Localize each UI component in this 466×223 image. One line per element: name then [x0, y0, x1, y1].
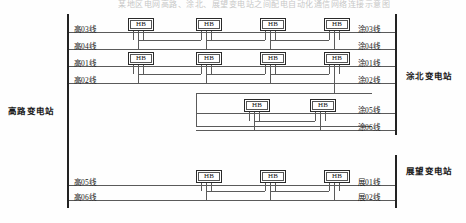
- diagram-title: 某地区电网高路、涂北、展望变电站之间配电自动化通信网络连接示意图: [118, 0, 390, 9]
- hb-device[interactable]: HB: [324, 170, 350, 183]
- substation-label-gaolu: 高路变电站: [8, 104, 55, 116]
- feeder-label-right-tu06: 涂06线: [358, 121, 380, 132]
- feeder-label-right-zhan02: 展02线: [358, 191, 380, 202]
- hb-device[interactable]: HB: [260, 170, 286, 183]
- feeder-label-right-tu02: 涂02线: [358, 74, 380, 85]
- hb-device[interactable]: HB: [310, 99, 336, 112]
- feeder-label-right-tu04: 涂04线: [358, 40, 380, 51]
- hb-device[interactable]: HB: [244, 99, 270, 112]
- feeder-label-right-tu01: 涂01线: [358, 57, 380, 68]
- hb-device[interactable]: HB: [260, 52, 286, 65]
- feeder-label-left-gao03: 高03线: [74, 23, 96, 34]
- feeder-label-right-zhan01: 展01线: [358, 176, 380, 187]
- hb-device[interactable]: HB: [128, 18, 154, 31]
- hb-device[interactable]: HB: [324, 18, 350, 31]
- diagram-canvas: 某地区电网高路、涂北、展望变电站之间配电自动化通信网络连接示意图: [0, 0, 466, 223]
- hb-device[interactable]: HB: [260, 18, 286, 31]
- feeder-label-left-gao04: 高04线: [74, 40, 96, 51]
- substation-label-tubei: 涂北变电站: [406, 69, 453, 81]
- hb-device[interactable]: HB: [196, 18, 222, 31]
- feeder-label-left-gao05: 高05线: [74, 176, 96, 187]
- feeder-label-right-tu05: 涂05线: [358, 104, 380, 115]
- feeder-label-left-gao06: 高06线: [74, 191, 96, 202]
- hb-device[interactable]: HB: [196, 52, 222, 65]
- hb-device[interactable]: HB: [324, 52, 350, 65]
- feeder-label-left-gao01: 高01线: [74, 57, 96, 68]
- feeder-label-right-tu03: 涂03线: [358, 23, 380, 34]
- hb-device[interactable]: HB: [196, 170, 222, 183]
- hb-device[interactable]: HB: [128, 52, 154, 65]
- substation-label-zhanwang: 展望变电站: [406, 164, 453, 176]
- feeder-label-left-gao02: 高02线: [74, 74, 96, 85]
- diagram-svg: [0, 0, 466, 223]
